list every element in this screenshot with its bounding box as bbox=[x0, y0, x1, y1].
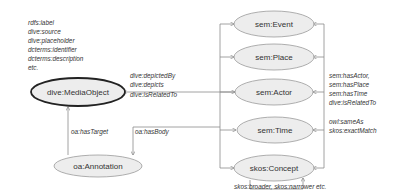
edge-label: owl:sameAs bbox=[329, 118, 364, 125]
node-label: oa:Annotation bbox=[73, 162, 122, 171]
edge-label: oa:hasBody bbox=[135, 128, 170, 136]
node-label: sem:Place bbox=[255, 53, 293, 62]
node-media-object[interactable]: dive:MediaObject bbox=[31, 78, 125, 106]
node-time[interactable]: sem:Time bbox=[237, 117, 313, 143]
edge-label: skos:exactMatch bbox=[329, 127, 377, 134]
prop-line: dcterms:identifier bbox=[28, 46, 78, 53]
edge-label: oa:hasTarget bbox=[71, 128, 108, 136]
edge-label: dive:isRelatedTo bbox=[130, 91, 177, 98]
prop-line: etc. bbox=[28, 64, 38, 71]
node-place[interactable]: sem:Place bbox=[234, 44, 314, 70]
node-concept[interactable]: skos:Concept bbox=[234, 155, 314, 181]
edge-label: dive:depictedBy bbox=[130, 72, 176, 80]
edge-label: sem:hasActor, bbox=[329, 72, 370, 79]
prop-line: dive:source bbox=[28, 28, 61, 35]
node-label: sem:Event bbox=[255, 20, 294, 29]
node-label: skos:Concept bbox=[250, 164, 299, 173]
node-actor[interactable]: sem:Actor bbox=[235, 79, 313, 105]
edge-label: skos:broader, skos:narrower etc. bbox=[234, 183, 326, 190]
prop-line: rdfs:label bbox=[28, 19, 55, 26]
edge-label: dive:isRelatedTo bbox=[329, 99, 376, 106]
edge-label: dive:depicts bbox=[130, 81, 165, 89]
ontology-diagram: rdfs:label dive:source dive:placeholder … bbox=[0, 0, 399, 193]
node-event[interactable]: sem:Event bbox=[234, 11, 314, 37]
properties-note: rdfs:label dive:source dive:placeholder … bbox=[28, 19, 84, 71]
node-label: sem:Actor bbox=[256, 88, 292, 97]
node-label: dive:MediaObject bbox=[47, 88, 110, 97]
prop-line: dive:placeholder bbox=[28, 37, 75, 45]
prop-line: dcterms:description bbox=[28, 55, 84, 63]
edge-label: sem:hasPlace bbox=[329, 81, 370, 88]
edge-label: sem:hasTime bbox=[329, 90, 368, 97]
node-label: sem:Time bbox=[258, 126, 293, 135]
node-annotation[interactable]: oa:Annotation bbox=[54, 155, 142, 177]
